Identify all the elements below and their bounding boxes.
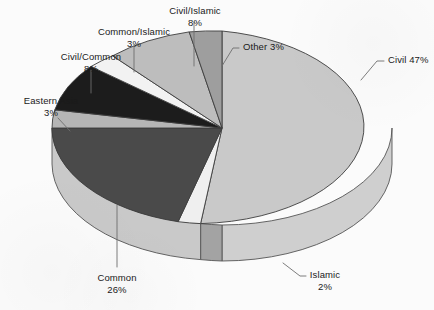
label-civil: Civil 47% xyxy=(388,54,429,66)
label-civil-common: Civil/Common 8% xyxy=(42,51,140,74)
label-civil-islamic: Civil/Islamic 8% xyxy=(150,5,240,28)
pie-chart-graphic xyxy=(0,0,434,310)
label-common-value: 26% xyxy=(72,284,162,296)
label-common-name: Common xyxy=(72,272,162,284)
label-common-islamic: Common/Islamic 3% xyxy=(78,26,190,49)
pie-slice-civil xyxy=(201,31,364,224)
label-civil-common-name: Civil/Common xyxy=(42,51,140,63)
label-islamic: Islamic 2% xyxy=(288,269,362,292)
label-eastern-asia-value: 3% xyxy=(2,107,100,119)
pie-chart-figure: Civil 47% Other 3% Civil/Islamic 8% Comm… xyxy=(0,0,434,310)
label-eastern-asia-name: Eastern Asia xyxy=(2,95,100,107)
label-common-islamic-value: 3% xyxy=(78,38,190,50)
label-other: Other 3% xyxy=(243,41,284,53)
label-islamic-value: 2% xyxy=(288,281,362,293)
label-civil-name: Civil 47% xyxy=(388,54,429,66)
label-islamic-name: Islamic xyxy=(288,269,362,281)
label-eastern-asia: Eastern Asia 3% xyxy=(2,95,100,118)
label-common: Common 26% xyxy=(72,272,162,295)
leader-line-civil xyxy=(361,61,384,80)
pie-side-islamic xyxy=(201,224,222,261)
label-civil-common-value: 8% xyxy=(42,63,140,75)
label-civil-islamic-name: Civil/Islamic xyxy=(150,5,240,17)
label-other-name: Other 3% xyxy=(243,41,284,53)
label-common-islamic-name: Common/Islamic xyxy=(78,26,190,38)
